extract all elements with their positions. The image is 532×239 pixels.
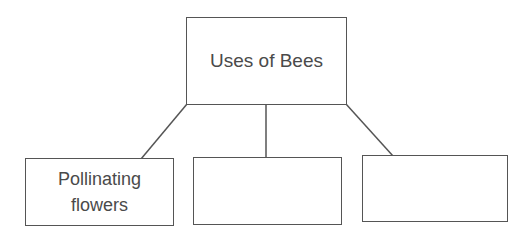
root-node-label: Uses of Bees	[204, 47, 329, 75]
child-node-3-blank[interactable]	[362, 155, 508, 222]
child-node-1: Pollinating flowers	[25, 158, 174, 226]
child-node-1-label: Pollinating flowers	[39, 166, 161, 218]
concept-map: Uses of Bees Pollinating flowers	[0, 0, 532, 239]
root-node: Uses of Bees	[186, 17, 347, 105]
connector-right	[346, 104, 393, 156]
connector-left	[141, 104, 187, 159]
child-node-2-blank[interactable]	[193, 157, 342, 225]
